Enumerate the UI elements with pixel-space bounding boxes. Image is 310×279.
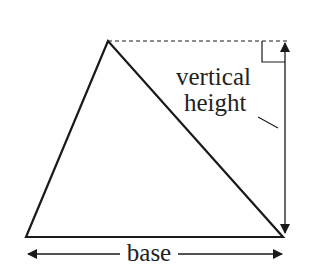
triangle-diagram: vertical height base bbox=[0, 0, 310, 279]
right-angle-marker bbox=[262, 41, 285, 62]
vertical-label: vertical bbox=[176, 63, 251, 90]
base-label: base bbox=[127, 239, 171, 266]
diagram-canvas: vertical height base bbox=[0, 0, 310, 279]
height-label: height bbox=[184, 89, 247, 116]
label-leader-line bbox=[258, 117, 278, 128]
